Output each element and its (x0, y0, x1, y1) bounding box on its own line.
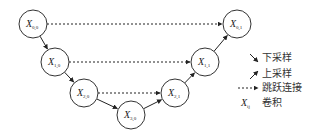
legend-conv-symbol: Xij (240, 97, 250, 109)
downsample-edge (40, 36, 47, 49)
upsample-edge (214, 35, 227, 51)
legend-upsample-label: 上采样 (262, 68, 292, 80)
node-x20: X2,0 (70, 79, 98, 107)
svg-text:Xij: Xij (240, 97, 250, 109)
node-x01: X0,1 (223, 10, 251, 38)
legend-upsample-icon (250, 71, 258, 79)
node-x00: X0,0 (19, 10, 47, 38)
legend-downsample-label: 下采样 (262, 52, 292, 64)
upsample-edge (144, 100, 162, 109)
downsample-edge (65, 72, 74, 82)
upsample-edge (185, 73, 195, 83)
legend-skip-label: 跳跃连接 (262, 82, 302, 94)
node-x11: X1,1 (191, 48, 219, 76)
node-x10: X1,0 (41, 48, 69, 76)
node-x21: X2,1 (161, 79, 189, 107)
legend-conv-label: 卷积 (262, 97, 282, 109)
legend-downsample-icon (250, 54, 258, 62)
node-x30: X3,0 (117, 101, 145, 129)
downsample-edge (97, 99, 118, 109)
